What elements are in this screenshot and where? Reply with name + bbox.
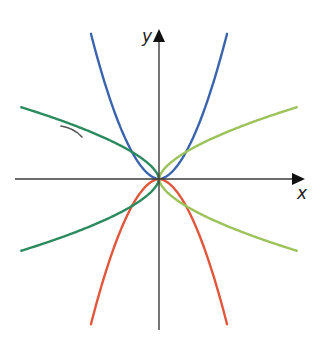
light-green-right-upper-curve bbox=[159, 107, 297, 179]
light-green-right-lower-curve bbox=[159, 179, 297, 251]
dark-green-left-lower-curve bbox=[21, 179, 159, 251]
x-axis-label: x bbox=[296, 183, 308, 203]
dark-green-left-upper-curve bbox=[21, 107, 159, 179]
y-axis-label: y bbox=[141, 26, 153, 46]
y-axis-arrowhead bbox=[153, 29, 165, 42]
function-graph: x y bbox=[0, 0, 320, 349]
